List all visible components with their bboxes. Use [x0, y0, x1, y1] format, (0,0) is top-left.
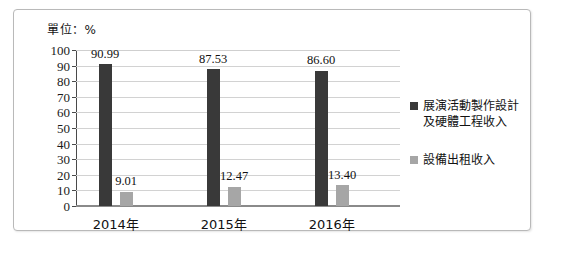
y-tick-mark: [72, 128, 76, 129]
square-swatch-icon: [410, 156, 418, 164]
y-tick-mark: [72, 66, 76, 67]
y-tick-label: 40: [57, 137, 70, 150]
y-tick-label: 80: [57, 75, 70, 88]
x-axis-label: 2016年: [309, 218, 355, 231]
y-tick-label: 50: [57, 122, 70, 135]
bar[interactable]: [228, 187, 241, 206]
chart-legend: 展演活動製作設計 及硬體工程收入設備出租收入: [410, 98, 550, 190]
legend-item[interactable]: 展演活動製作設計 及硬體工程收入: [410, 98, 550, 130]
legend-item[interactable]: 設備出租收入: [410, 152, 550, 168]
y-tick-label: 20: [57, 168, 70, 181]
bar-group: 90.999.012014年: [99, 50, 153, 206]
y-tick-mark: [72, 175, 76, 176]
x-axis-label: 2014年: [93, 218, 139, 231]
y-tick-label: 90: [57, 59, 70, 72]
data-label: 86.60: [307, 54, 335, 67]
y-tick-label: 30: [57, 153, 70, 166]
y-tick-label: 10: [57, 184, 70, 197]
y-tick-mark: [72, 81, 76, 82]
y-tick-label: 70: [57, 90, 70, 103]
y-tick-mark: [72, 112, 76, 113]
bar[interactable]: [207, 69, 220, 206]
y-tick-mark: [72, 50, 76, 51]
bar[interactable]: [99, 64, 112, 206]
y-tick-label: 60: [57, 106, 70, 119]
bar-group: 87.5312.472015年: [207, 50, 261, 206]
y-tick-label: 0: [64, 200, 71, 213]
y-tick-mark: [72, 97, 76, 98]
data-label: 9.01: [115, 175, 137, 188]
legend-label: 設備出租收入: [423, 152, 495, 168]
unit-label: 單位：%: [47, 20, 96, 37]
y-tick-mark: [72, 159, 76, 160]
y-tick-mark: [72, 190, 76, 191]
data-label: 13.40: [328, 169, 356, 182]
legend-label: 展演活動製作設計 及硬體工程收入: [423, 98, 519, 130]
square-swatch-icon: [410, 102, 418, 110]
plot-area: 1009080706050403020100 90.999.012014年87.…: [76, 50, 400, 206]
data-label: 12.47: [220, 170, 248, 183]
data-label: 87.53: [199, 53, 227, 66]
y-tick-mark: [72, 144, 76, 145]
y-tick-label: 100: [51, 44, 71, 57]
bar-group: 86.6013.402016年: [315, 50, 369, 206]
bar[interactable]: [120, 192, 133, 206]
x-axis-label: 2015年: [201, 218, 247, 231]
chart-frame: 單位：% 1009080706050403020100 90.999.01201…: [13, 9, 531, 231]
bar[interactable]: [336, 185, 349, 206]
y-tick-mark: [72, 206, 76, 207]
data-label: 90.99: [91, 48, 119, 61]
bar[interactable]: [315, 71, 328, 206]
